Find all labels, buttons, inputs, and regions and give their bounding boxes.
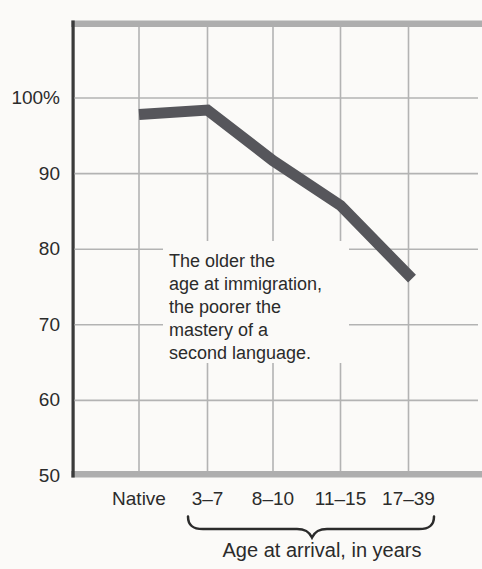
x-category-label-native: Native	[112, 488, 166, 510]
y-tick-label-50: 50	[0, 465, 60, 487]
y-tick-label-60: 60	[0, 389, 60, 411]
y-tick-label-100: 100%	[0, 87, 60, 109]
x-category-label-8-10: 8–10	[252, 488, 294, 510]
y-tick-label-70: 70	[0, 314, 60, 336]
bottom-border-bar	[71, 471, 482, 478]
x-category-label-11-15: 11–15	[315, 488, 366, 510]
x-category-label-3-7: 3–7	[192, 488, 224, 510]
y-tick-label-90: 90	[0, 163, 60, 185]
y-tick-label-80: 80	[0, 238, 60, 260]
x-category-label-17-39: 17–39	[382, 488, 435, 510]
chart-annotation: The older the age at immigration, the po…	[163, 241, 349, 363]
x-axis-brace	[188, 517, 434, 538]
top-border-bar	[71, 21, 482, 28]
x-axis-title: Age at arrival, in years	[162, 539, 482, 562]
chart-figure: 100% 90 80 70 60 50 Native 3–7 8–10 11–1…	[0, 0, 482, 569]
y-axis-line	[72, 21, 75, 478]
